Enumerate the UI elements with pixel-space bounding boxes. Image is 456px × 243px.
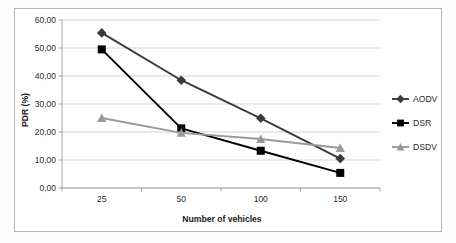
x-tick-label: 50 [177,194,187,204]
series-dsr [98,45,345,176]
series-dsdv [97,113,345,152]
x-tick-label-group: 2550100150 [97,194,348,204]
data-point-marker [336,169,344,177]
y-tick-label: 10,00 [35,155,57,165]
data-point-marker [98,45,106,53]
data-point-marker [256,113,266,123]
data-point-marker [97,28,107,38]
y-tick-label: 40,00 [35,71,57,81]
legend-square-marker [397,120,404,127]
x-axis-title: Number of vehicles [182,214,261,224]
series-line [102,49,341,172]
legend-item-dsr[interactable]: DSR [392,118,431,128]
data-series-group [97,28,345,177]
gridline-group [62,20,380,188]
y-tick-label-group: 0,0010,0020,0030,0040,0050,0060,00 [35,15,57,193]
legend-label: DSR [413,118,431,128]
legend-diamond-marker [396,95,404,103]
data-point-marker [176,75,186,85]
series-line [102,118,341,148]
x-tick-label: 100 [254,194,268,204]
chart-legend: AODVDSRDSDV [392,94,438,152]
legend-label: DSDV [413,142,437,152]
legend-item-dsdv[interactable]: DSDV [392,142,437,152]
axis-group [59,20,381,192]
legend-item-aodv[interactable]: AODV [392,94,438,104]
line-chart: 0,0010,0020,0030,0040,0050,0060,00 25501… [0,0,456,243]
y-tick-label: 60,00 [35,15,57,25]
y-tick-label: 50,00 [35,43,57,53]
y-axis-title: PDR (%) [20,93,30,127]
y-tick-label: 0,00 [39,183,56,193]
x-tick-label: 25 [97,194,107,204]
data-point-marker [257,147,265,155]
legend-label: AODV [413,94,438,104]
data-point-marker [335,154,345,164]
y-tick-label: 30,00 [35,99,57,109]
y-tick-label: 20,00 [35,127,57,137]
chart-figure: 0,0010,0020,0030,0040,0050,0060,00 25501… [0,0,456,243]
x-tick-label: 150 [333,194,347,204]
